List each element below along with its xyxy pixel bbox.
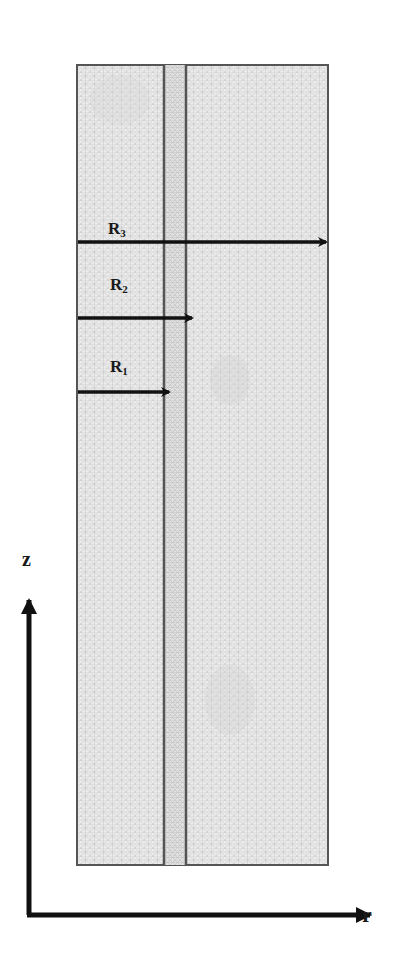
inner-layer <box>164 65 186 865</box>
outer-domain <box>77 65 328 865</box>
mesh-diagram: R3 R2 R1 z r <box>0 0 393 955</box>
mesh-domain <box>77 65 328 865</box>
r-axis-label: r <box>362 902 372 927</box>
z-axis-label: z <box>22 548 31 570</box>
